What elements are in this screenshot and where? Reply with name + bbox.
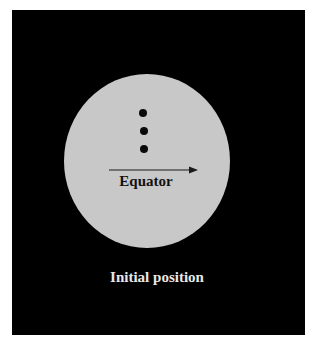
- equator-label: Equator: [110, 172, 182, 190]
- diagram-canvas: [0, 0, 314, 341]
- marker-dot-1: [139, 109, 147, 117]
- marker-dot-2: [140, 127, 148, 135]
- sphere-disc: [64, 74, 230, 248]
- marker-dot-3: [140, 145, 148, 153]
- caption-initial-position: Initial position: [90, 268, 224, 286]
